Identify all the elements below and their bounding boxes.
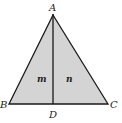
point-a [52,14,54,16]
triangle-diagram: A B C D m n [0,0,122,123]
label-a: A [48,2,56,13]
label-d: D [48,109,57,120]
region-label-n: n [66,74,73,84]
label-b: B [0,99,7,110]
triangle-abc [9,15,108,104]
label-c: C [110,99,118,110]
region-label-m: m [37,74,47,84]
